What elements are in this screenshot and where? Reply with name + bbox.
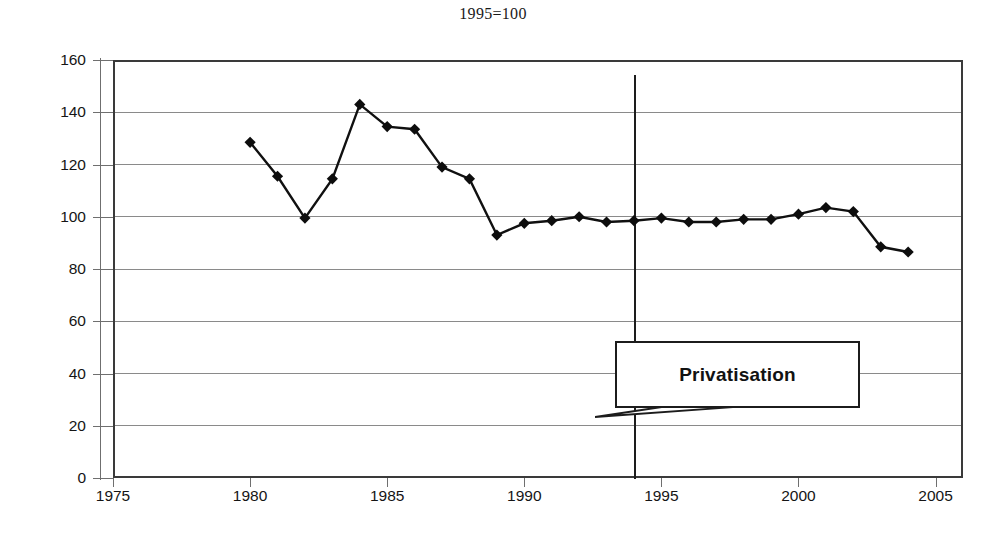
gridline xyxy=(115,112,961,113)
gridline xyxy=(115,216,961,217)
gridline xyxy=(115,321,961,322)
callout-label: Privatisation xyxy=(615,341,860,408)
y-tick-mark xyxy=(93,60,113,61)
y-tick-label: 0 xyxy=(28,469,86,487)
y-tick-mark xyxy=(93,269,113,270)
privatisation-callout: Privatisation xyxy=(615,341,860,408)
y-tick-mark xyxy=(93,217,113,218)
gridline xyxy=(115,425,961,426)
x-tick-label: 1985 xyxy=(370,487,404,505)
x-tick-mark xyxy=(387,478,388,487)
y-tick-mark xyxy=(93,112,113,113)
gridline xyxy=(115,269,961,270)
y-tick-mark xyxy=(93,321,113,322)
x-tick-mark xyxy=(250,478,251,487)
y-tick-label: 60 xyxy=(28,312,86,330)
x-tick-label: 2000 xyxy=(781,487,815,505)
x-tick-label: 1995 xyxy=(644,487,678,505)
x-tick-label: 2005 xyxy=(918,487,952,505)
chart-title: 1995=100 xyxy=(0,5,986,23)
y-tick-mark xyxy=(93,374,113,375)
y-tick-label: 160 xyxy=(28,51,86,69)
gridline xyxy=(115,164,961,165)
x-tick-label: 1980 xyxy=(233,487,267,505)
y-tick-mark xyxy=(93,478,113,479)
x-tick-mark xyxy=(113,478,114,487)
y-tick-mark xyxy=(93,426,113,427)
y-tick-label: 120 xyxy=(28,156,86,174)
x-tick-mark xyxy=(936,478,937,487)
y-tick-label: 20 xyxy=(28,417,86,435)
x-tick-label: 1975 xyxy=(96,487,130,505)
y-tick-label: 80 xyxy=(28,260,86,278)
x-tick-mark xyxy=(798,478,799,487)
x-tick-label: 1990 xyxy=(507,487,541,505)
chart-page: 1995=100 020406080100120140160 197519801… xyxy=(0,0,986,553)
y-tick-label: 100 xyxy=(28,208,86,226)
plot-area xyxy=(113,60,963,478)
y-tick-label: 40 xyxy=(28,365,86,383)
x-tick-mark xyxy=(661,478,662,487)
y-tick-label: 140 xyxy=(28,103,86,121)
x-tick-mark xyxy=(524,478,525,487)
y-tick-mark xyxy=(93,165,113,166)
